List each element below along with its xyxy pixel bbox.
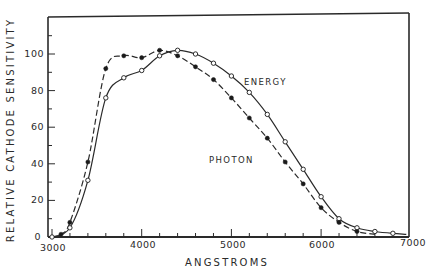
x-ticks [52,229,375,237]
photon-data-point [337,220,341,224]
energy-data-point [50,235,54,239]
energy-data-point [247,90,251,94]
photon-data-point [122,54,126,58]
y-tick-label: 40 [31,158,44,169]
plot-frame [48,13,409,237]
photon-data-point [59,232,63,236]
photon-data-point [104,67,108,71]
x-tick-label: 7000 [400,237,426,248]
energy-data-point [373,229,377,233]
photon-label: PHOTON [209,155,254,165]
x-tick-label: 6000 [309,239,335,250]
photon-data-point [193,65,197,69]
energy-markers [50,48,395,239]
energy-data-point [301,167,305,171]
energy-data-point [391,231,395,235]
photon-data-point [283,160,287,164]
photon-data-point [140,56,144,60]
energy-data-point [319,195,323,199]
y-tick-label: 60 [31,121,44,132]
energy-data-point [68,226,72,230]
energy-data-point [157,54,161,58]
photon-data-point [176,54,180,58]
energy-data-point [175,48,179,52]
photon-data-point [68,220,72,224]
x-axis-title: ANGSTROMS [185,257,269,268]
energy-data-point [86,178,90,182]
energy-data-point [122,76,126,80]
y-axis-title: RELATIVE CATHODE SENSITIVITY [5,18,16,242]
y-tick-label: 0 [34,231,41,242]
photon-data-point [86,160,90,164]
y-ticks [48,36,55,219]
photon-data-point [301,182,305,186]
energy-data-point [283,140,287,144]
y-tick-label: 80 [31,85,44,96]
photon-data-point [211,78,215,82]
energy-data-point [229,74,233,78]
photon-data-point [247,116,251,120]
energy-curve [52,50,406,237]
x-tick-label: 3000 [40,242,66,253]
x-tick-label: 4000 [130,239,156,250]
photon-data-point [319,206,323,210]
photon-data-point [265,136,269,140]
photon-data-point [229,96,233,100]
energy-label: ENERGY [244,77,287,87]
sensitivity-chart: 0 20 40 60 80 100 3000 4000 5000 6000 70… [0,0,433,276]
x-tick-labels: 3000 4000 5000 6000 7000 [40,237,426,253]
energy-data-point [265,112,269,116]
energy-data-point [140,68,144,72]
energy-data-point [104,96,108,100]
y-tick-labels: 0 20 40 60 80 100 [24,48,44,242]
energy-data-point [193,52,197,56]
top-border [48,13,409,17]
photon-data-point [355,229,359,233]
photon-data-point [158,48,162,52]
x-tick-label: 5000 [220,239,246,250]
y-tick-label: 20 [31,194,44,205]
y-tick-label: 100 [24,48,44,59]
energy-data-point [211,61,215,65]
